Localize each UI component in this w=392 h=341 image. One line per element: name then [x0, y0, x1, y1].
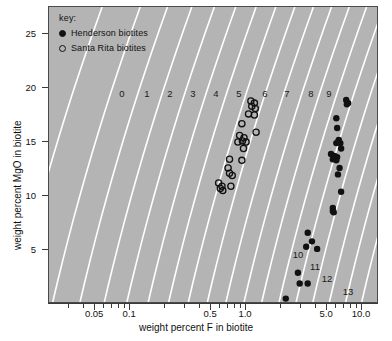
contour-label-11: 11	[310, 261, 320, 272]
x-tick-mark-minor	[219, 304, 220, 308]
contour-label-3: 3	[190, 88, 195, 99]
y-tick-label-15: 15	[25, 136, 36, 147]
contour-label-6: 6	[262, 88, 267, 99]
data-point-filled	[303, 244, 309, 250]
contour-label-2: 2	[167, 88, 172, 99]
x-tick-mark-minor	[300, 304, 301, 308]
plot-area: key: Henderson biotites Santa Rita bioti…	[48, 6, 378, 303]
x-axis-line	[48, 303, 378, 304]
data-point-filled	[296, 280, 302, 286]
data-point-filled	[295, 269, 301, 275]
contour-label-1: 1	[144, 88, 149, 99]
data-point-open	[245, 111, 251, 117]
y-tick-mark	[42, 33, 48, 34]
data-point-filled	[314, 246, 320, 252]
x-tick-mark-minor	[350, 304, 351, 308]
contour-label-8: 8	[308, 88, 313, 99]
y-tick-label-25: 25	[25, 28, 36, 39]
data-point-open	[251, 112, 257, 118]
legend-item-santa-rita: Santa Rita biotites	[59, 43, 148, 53]
legend-title: key:	[59, 13, 148, 23]
x-tick-label-10.0: 10.0	[352, 308, 371, 319]
data-point-filled	[335, 171, 341, 177]
data-point-filled	[309, 238, 315, 244]
legend: key: Henderson biotites Santa Rita bioti…	[59, 13, 148, 53]
y-tick-mark	[42, 141, 48, 142]
x-axis-label: weight percent F in biotite	[0, 322, 392, 333]
data-point-filled	[337, 140, 343, 146]
contour-line	[361, 7, 378, 303]
contour-line	[168, 7, 256, 303]
x-tick-mark-minor	[234, 304, 235, 308]
x-tick-mark-minor	[118, 304, 119, 308]
y-tick-mark	[42, 195, 48, 196]
figure-root: weight percent MgO in biotite 510152025 …	[0, 0, 392, 341]
contour-label-12: 12	[322, 273, 333, 284]
x-tick-mark-minor	[280, 304, 281, 308]
data-point-open	[240, 145, 246, 151]
x-tick-mark-minor	[103, 304, 104, 308]
x-tick-mark-minor	[335, 304, 336, 308]
contour-label-10: 10	[293, 249, 304, 260]
x-tick-mark-minor	[184, 304, 185, 308]
open-circle-icon	[59, 45, 66, 52]
legend-item-henderson: Henderson biotites	[59, 28, 148, 38]
data-point-filled	[331, 209, 337, 215]
contour-label-9: 9	[326, 88, 331, 99]
contour-label-7: 7	[284, 88, 289, 99]
contour-label-0: 0	[119, 88, 124, 99]
data-point-open	[228, 183, 234, 189]
data-point-filled	[344, 101, 350, 107]
data-point-filled	[338, 145, 344, 151]
data-point-filled	[336, 165, 342, 171]
contour-label-5: 5	[236, 88, 241, 99]
x-tick-label-0.5: 0.5	[204, 308, 217, 319]
data-point-filled	[283, 295, 289, 301]
y-tick-label-20: 20	[25, 82, 36, 93]
x-tick-mark-minor	[227, 304, 228, 308]
x-tick-label-5.0: 5.0	[320, 308, 333, 319]
data-point-filled	[333, 157, 339, 163]
x-tick-mark-minor	[199, 304, 200, 308]
x-tick-label-0.1: 0.1	[122, 308, 135, 319]
data-point-filled	[338, 188, 344, 194]
x-tick-mark-minor	[68, 304, 69, 308]
y-tick-mark	[42, 249, 48, 250]
x-tick-label-1.0: 1.0	[238, 308, 251, 319]
y-tick-label-5: 5	[31, 244, 36, 255]
x-tick-mark-minor	[315, 304, 316, 308]
data-point-open	[253, 129, 259, 135]
legend-label-henderson: Henderson biotites	[71, 28, 148, 38]
x-tick-mark-minor	[164, 304, 165, 308]
contour-line	[377, 7, 378, 303]
y-tick-label-10: 10	[25, 190, 36, 201]
y-tick-mark	[42, 87, 48, 88]
contour-line	[148, 7, 236, 303]
filled-circle-icon	[59, 30, 66, 37]
data-point-filled	[334, 125, 340, 131]
data-point-filled	[333, 115, 339, 121]
data-point-filled	[305, 280, 311, 286]
y-axis: 510152025	[0, 0, 48, 341]
contour-label-4: 4	[213, 88, 218, 99]
series-santa-rita	[216, 98, 260, 194]
data-point-filled	[305, 230, 311, 236]
contour-label-13: 13	[343, 286, 354, 297]
x-tick-label-0.05: 0.05	[85, 308, 104, 319]
legend-label-santa-rita: Santa Rita biotites	[71, 43, 146, 53]
data-point-open	[239, 121, 245, 127]
x-tick-mark-minor	[83, 304, 84, 308]
data-point-open	[226, 156, 232, 162]
x-tick-mark-minor	[111, 304, 112, 308]
x-tick-mark-minor	[343, 304, 344, 308]
contour-line	[188, 7, 276, 303]
